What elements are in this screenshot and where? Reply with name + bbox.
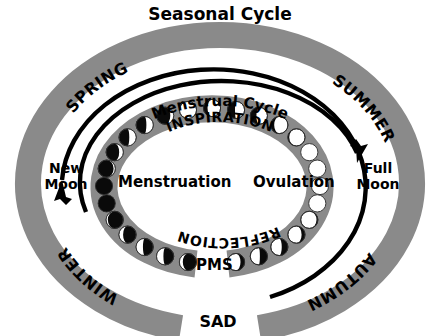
- seasonal-menstrual-cycle-diagram: Seasonal Cycle SPRING SUMMER AUTUMN WINT…: [0, 0, 440, 336]
- page-title: Seasonal Cycle: [148, 4, 291, 24]
- moon-phase-disc: [288, 129, 305, 146]
- full-moon-label-line2: Moon: [356, 176, 399, 192]
- moon-phase-disc: [157, 248, 174, 265]
- full-moon-label-line1: Full: [364, 160, 392, 176]
- moon-phase-disc: [288, 226, 305, 243]
- moon-phase-disc: [179, 253, 196, 270]
- moon-phase-disc: [106, 144, 123, 161]
- moon-phase-disc: [250, 248, 267, 265]
- sad-label: SAD: [199, 312, 236, 331]
- pms-label: PMS: [196, 256, 233, 274]
- ovulation-label: Ovulation: [253, 173, 335, 191]
- moon-phase-disc: [136, 238, 153, 255]
- moon-phase-disc: [98, 160, 115, 177]
- menstruation-label: Menstruation: [118, 173, 231, 191]
- new-moon-label-line1: New: [49, 160, 83, 176]
- moon-phase-disc: [98, 195, 115, 212]
- moon-phase-disc: [136, 116, 153, 133]
- moon-phase-disc: [301, 144, 318, 161]
- moon-phase-disc: [309, 195, 326, 212]
- moon-phase-disc: [95, 177, 112, 194]
- moon-phase-disc: [119, 129, 136, 146]
- moon-phase-disc: [301, 211, 318, 228]
- moon-phase-disc: [106, 211, 123, 228]
- diagram-canvas: Seasonal Cycle SPRING SUMMER AUTUMN WINT…: [0, 0, 440, 336]
- new-moon-label-line2: Moon: [44, 176, 87, 192]
- moon-phase-disc: [119, 226, 136, 243]
